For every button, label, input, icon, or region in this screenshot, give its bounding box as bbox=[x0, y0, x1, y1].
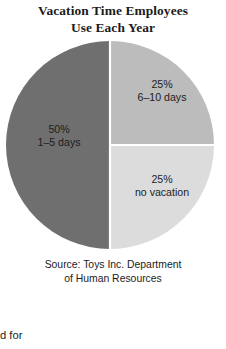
chart-title: Vacation Time Employees Use Each Year bbox=[0, 3, 226, 36]
slice-label-1-5-days-category: 1–5 days bbox=[13, 136, 105, 149]
source-note-line-2: of Human Resources bbox=[0, 272, 226, 286]
slice-label-6-10-days-percent: 25% bbox=[112, 78, 212, 91]
slice-label-1-5-days: 50% 1–5 days bbox=[13, 123, 105, 149]
slice-label-no-vacation-percent: 25% bbox=[112, 173, 212, 186]
slice-label-no-vacation: 25% no vacation bbox=[112, 173, 212, 199]
page-text-fragment: d for bbox=[0, 328, 22, 342]
chart-title-line-1: Vacation Time Employees bbox=[0, 3, 226, 20]
source-note: Source: Toys Inc. Department of Human Re… bbox=[0, 258, 226, 287]
slice-label-no-vacation-category: no vacation bbox=[112, 186, 212, 199]
slice-label-1-5-days-percent: 50% bbox=[13, 123, 105, 136]
slice-label-6-10-days: 25% 6–10 days bbox=[112, 78, 212, 104]
slice-label-6-10-days-category: 6–10 days bbox=[112, 91, 212, 104]
chart-title-line-2: Use Each Year bbox=[0, 20, 226, 37]
source-note-line-1: Source: Toys Inc. Department bbox=[0, 258, 226, 272]
pie-chart-figure: Vacation Time Employees Use Each Year 25… bbox=[0, 0, 226, 349]
